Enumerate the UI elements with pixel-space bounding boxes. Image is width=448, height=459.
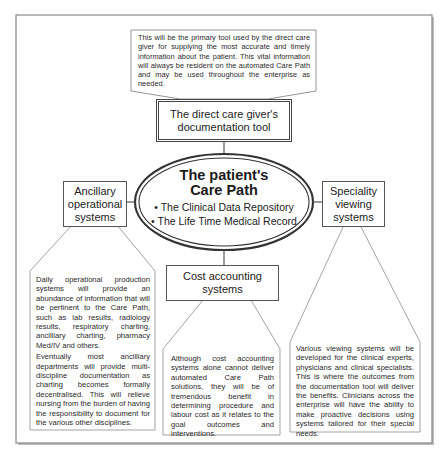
- care-path-item: • The Life Time Medical Record: [137, 214, 311, 228]
- cost-note-text: Although cost accounting systems alone c…: [171, 354, 274, 438]
- care-path-title-1: The patient's: [137, 168, 311, 183]
- ancillary-note: Daily operational production systems wil…: [36, 275, 150, 430]
- care-path-title-2: Care Path: [137, 183, 311, 198]
- speciality-note: Various viewing systems will be develope…: [296, 344, 414, 438]
- doc-tool-box: The direct care giver's documentation to…: [156, 99, 292, 142]
- bullet-icon: •: [154, 201, 158, 213]
- speciality-box: Speciality viewing systems: [322, 181, 385, 227]
- ancillary-box: Ancillary operational systems: [63, 181, 127, 227]
- ancillary-note-para-1: Daily operational production systems wil…: [36, 275, 150, 350]
- speciality-note-text: Various viewing systems will be develope…: [296, 344, 414, 438]
- ancillary-note-para-2: Eventually most ancilliary departments w…: [36, 352, 150, 427]
- cost-note: Although cost accounting systems alone c…: [171, 354, 274, 439]
- care-path-item-label: The Clinical Data Repository: [161, 201, 294, 213]
- bullet-icon: •: [151, 215, 155, 227]
- top-note-text: This will be the primary tool used by th…: [138, 33, 310, 88]
- cost-label: Cost accounting systems: [171, 270, 274, 296]
- cost-box: Cost accounting systems: [166, 265, 279, 301]
- care-path-item: • The Clinical Data Repository: [137, 200, 311, 214]
- doc-tool-label: The direct care giver's documentation to…: [165, 108, 283, 134]
- care-path-item-label: The Life Time Medical Record: [157, 215, 296, 227]
- speciality-label: Speciality viewing systems: [325, 185, 382, 224]
- care-path-center: The patient's Care Path • The Clinical D…: [137, 168, 311, 228]
- ancillary-label: Ancillary operational systems: [66, 185, 124, 224]
- top-note: This will be the primary tool used by th…: [138, 33, 310, 89]
